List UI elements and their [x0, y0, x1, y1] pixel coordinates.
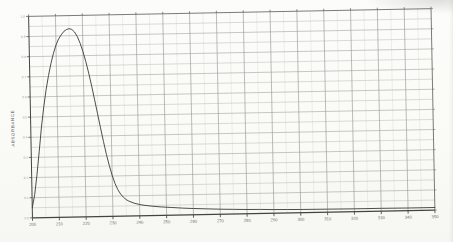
x-tick-label: 220 [83, 221, 91, 226]
x-tick-label: 230 [110, 220, 118, 225]
y-tick-label: 1.0 [21, 15, 26, 19]
x-tick-label: 320 [351, 216, 359, 221]
y-tick-label: 0.6 [22, 95, 27, 99]
absorbance-spectrum-chart: 2002102202302402502602702802903003103203… [0, 0, 453, 242]
x-tick-labels: 2002102202302402502602702802903003103203… [29, 214, 439, 227]
x-tick-label: 290 [271, 217, 279, 222]
y-tick-label: 0.5 [23, 115, 28, 119]
x-tick-label: 240 [136, 220, 144, 225]
y-tick-label: 0.1 [24, 196, 29, 200]
chart-tilt-group: 2002102202302402502602702802903003103203… [8, 7, 439, 228]
y-tick-label: 0.2 [24, 176, 29, 180]
y-tick-label: 0.4 [23, 136, 28, 140]
x-tick-label: 260 [190, 219, 198, 224]
x-tick-label: 250 [163, 219, 171, 224]
x-tick-label: 340 [405, 215, 413, 220]
x-tick-label: 310 [324, 216, 332, 221]
scanned-spectrum-page: 2002102202302402502602702802903003103203… [0, 0, 453, 242]
y-tick-label: 0.9 [21, 35, 26, 39]
x-tick-label: 200 [29, 222, 37, 227]
y-tick-label: 0.3 [23, 156, 28, 160]
y-tick-label: 0.0 [25, 216, 30, 220]
y-tick-label: 0.7 [22, 75, 27, 79]
x-tick-label: 350 [431, 214, 439, 219]
x-tick-label: 210 [56, 221, 64, 226]
y-tick-label: 0.8 [21, 55, 26, 59]
x-tick-label: 300 [297, 217, 305, 222]
y-axis-title: ABSORBANCE [10, 110, 16, 147]
x-tick-label: 280 [244, 218, 252, 223]
y-tick-labels: 0.00.10.20.30.40.50.60.70.80.91.0 [21, 15, 30, 221]
x-tick-label: 330 [378, 215, 386, 220]
grid-horizontal [29, 19, 435, 208]
x-tick-label: 270 [217, 218, 225, 223]
